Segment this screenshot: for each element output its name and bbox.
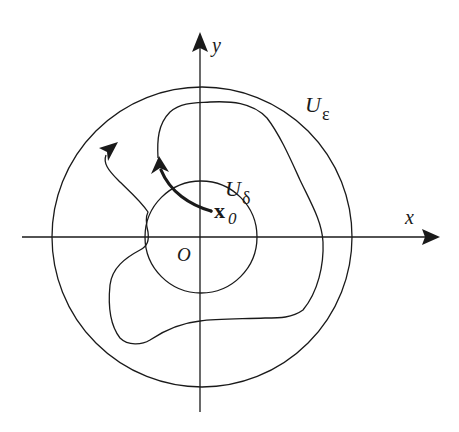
u-epsilon-label: U ε (305, 92, 330, 124)
axes (22, 48, 428, 412)
stability-diagram: y x O U ε U δ x 0 (0, 0, 459, 432)
svg-text:U: U (305, 92, 323, 117)
u-delta-label: U δ (225, 176, 250, 208)
svg-text:δ: δ (242, 188, 250, 208)
svg-text:x: x (214, 198, 225, 223)
x0-label: x 0 (214, 198, 237, 228)
y-axis-label: y (210, 34, 221, 57)
svg-text:0: 0 (228, 209, 237, 228)
escaping-trajectory-arrowhead-icon (99, 142, 118, 161)
origin-label: O (177, 244, 191, 265)
svg-text:U: U (225, 176, 243, 201)
x0-point (210, 210, 213, 213)
bounded-trajectory-start (161, 170, 211, 211)
svg-text:ε: ε (322, 104, 330, 124)
x-axis-label: x (404, 206, 414, 228)
